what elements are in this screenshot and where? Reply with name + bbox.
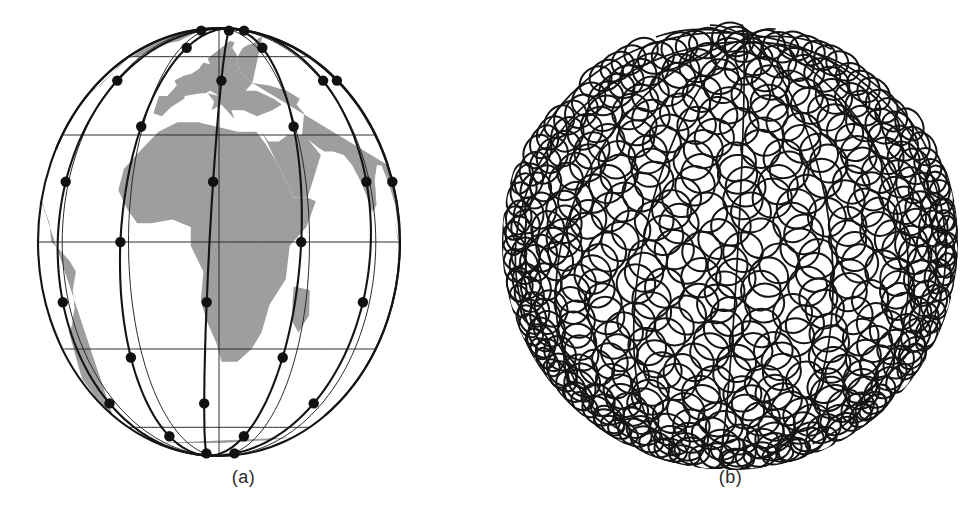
satellite-dot <box>182 43 192 53</box>
footprint-circles-group <box>501 22 959 470</box>
satellite-dot <box>58 297 68 307</box>
satellite-dot <box>309 398 319 408</box>
satellite-dot <box>387 177 397 187</box>
satellite-dot <box>115 237 125 247</box>
coverage-footprint <box>566 212 604 253</box>
satellite-dot <box>288 121 298 131</box>
satellite-dot <box>278 352 288 362</box>
satellite-dot <box>361 177 371 187</box>
satellite-dot <box>202 297 212 307</box>
coverage-footprint <box>821 45 865 87</box>
satellite-dot <box>229 448 239 458</box>
satellite-dot <box>126 352 136 362</box>
satellite-dot <box>239 431 249 441</box>
panel-b-caption: (b) <box>487 468 974 486</box>
coverage-footprint <box>780 167 833 220</box>
satellite-dot <box>224 25 234 35</box>
satellite-dot <box>164 431 174 441</box>
satellite-dot <box>216 75 226 85</box>
coverage-footprints-diagram <box>487 0 974 523</box>
satellite-dot <box>318 75 328 85</box>
satellite-dot <box>199 398 209 408</box>
satellite-dot <box>358 297 368 307</box>
figure-root: (a) (b) <box>0 0 974 523</box>
coverage-footprint <box>802 137 855 190</box>
satellite-dot <box>239 25 249 35</box>
satellite-dot <box>257 43 267 53</box>
coverage-footprint <box>703 269 747 313</box>
coverage-footprint <box>741 250 796 305</box>
satellite-dot <box>296 237 306 247</box>
satellite-dot <box>60 177 70 187</box>
coverage-footprint <box>579 241 621 285</box>
coverage-footprint <box>703 308 745 349</box>
satellite-dot <box>208 177 218 187</box>
panel-a-caption: (a) <box>0 468 487 486</box>
coverage-footprint <box>699 442 734 469</box>
satellite-dot <box>201 448 211 458</box>
globe-constellation-diagram <box>0 0 487 523</box>
coverage-footprint <box>648 300 701 353</box>
satellite-dot <box>196 25 206 35</box>
satellite-dot <box>104 398 114 408</box>
panel-b-coverage-footprints: (b) <box>487 0 974 523</box>
coverage-footprint <box>652 227 696 271</box>
satellite-dot <box>332 75 342 85</box>
satellite-dot <box>136 121 146 131</box>
satellite-dot <box>112 75 122 85</box>
panel-a-globe-constellation: (a) <box>0 0 487 523</box>
coverage-footprint <box>835 231 875 273</box>
